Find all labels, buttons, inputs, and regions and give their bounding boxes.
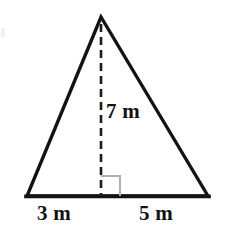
height-label: 7 m [106, 101, 140, 122]
figure-canvas: 7 m 3 m 5 m [0, 0, 233, 229]
base-left-segment-label: 3 m [37, 203, 71, 224]
base-right-segment-label: 5 m [139, 203, 173, 224]
